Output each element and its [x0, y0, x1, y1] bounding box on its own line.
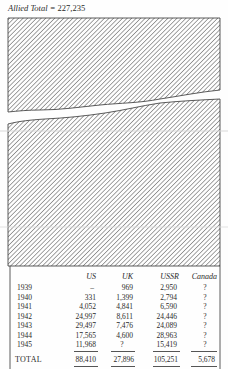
cell-canada: ?: [195, 321, 215, 330]
total-ussr: 105,251: [140, 355, 178, 364]
cell-ussr: 2,950: [140, 283, 177, 292]
row-year: 1941: [17, 302, 32, 311]
total-us: 88,410: [60, 355, 96, 364]
total-rule-top: [111, 351, 135, 352]
total-rule-bottom: [153, 366, 180, 367]
cell-ussr: 6,590: [140, 302, 177, 311]
col-header-ussr: USSR: [150, 272, 179, 281]
row-year: 1942: [17, 312, 32, 321]
cell-canada: ?: [195, 302, 215, 311]
col-header-canada: Canada: [185, 272, 217, 281]
total-canada: 5,678: [185, 355, 215, 364]
total-rule-top: [153, 351, 180, 352]
cell-canada: ?: [195, 331, 215, 340]
cell-ussr: 28,963: [140, 331, 177, 340]
total-rule-bottom: [111, 366, 135, 367]
cell-us: 11,968: [60, 340, 96, 349]
cell-canada: ?: [195, 293, 215, 302]
cell-us: 331: [60, 293, 96, 302]
row-year: 1945: [17, 340, 32, 349]
cell-uk: ?: [116, 340, 128, 349]
total-rule-top: [191, 351, 217, 352]
cell-ussr: 24,089: [140, 321, 177, 330]
total-rule-bottom: [191, 366, 217, 367]
cell-uk: 4,600: [100, 331, 133, 340]
total-rule-bottom: [74, 366, 98, 367]
cell-canada: ?: [195, 340, 215, 349]
row-year: 1944: [17, 331, 32, 340]
cell-uk: 8,611: [100, 312, 133, 321]
total-rule-top: [74, 351, 98, 352]
cell-us: 24,997: [60, 312, 96, 321]
cell-us: –: [60, 283, 94, 292]
col-header-uk: UK: [110, 272, 133, 281]
cell-us: 17,565: [60, 331, 96, 340]
cell-us: 29,497: [60, 321, 96, 330]
row-year: 1943: [17, 321, 32, 330]
cell-canada: ?: [195, 312, 215, 321]
cell-canada: ?: [195, 283, 215, 292]
cell-ussr: 2,794: [140, 293, 177, 302]
cell-uk: 1,399: [100, 293, 133, 302]
row-year: 1940: [17, 293, 32, 302]
cell-us: 4,052: [60, 302, 96, 311]
row-year: 1939: [17, 283, 32, 292]
total-label: TOTAL: [15, 355, 42, 364]
production-table: US UK USSR Canada 1939 – 969 2,950 ? 194…: [0, 0, 228, 369]
total-uk: 27,896: [100, 355, 134, 364]
cell-ussr: 15,419: [140, 340, 177, 349]
col-header-us: US: [70, 272, 96, 281]
cell-uk: 7,476: [100, 321, 133, 330]
cell-ussr: 24,446: [140, 312, 177, 321]
cell-uk: 969: [100, 283, 133, 292]
cell-uk: 4,841: [100, 302, 133, 311]
